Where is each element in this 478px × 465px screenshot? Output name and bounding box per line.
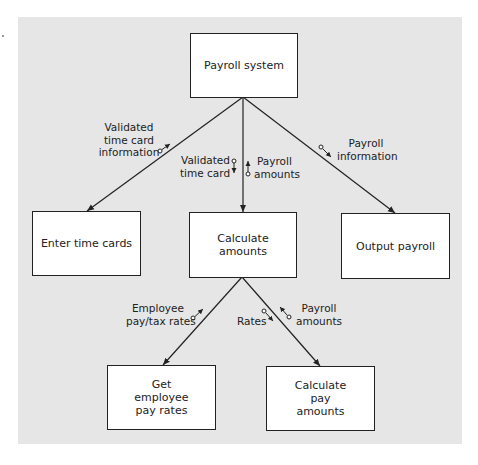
couple-label-payroll-amounts-up: Payroll amounts bbox=[254, 155, 300, 180]
couple-label-payroll-information: Payroll information bbox=[337, 137, 395, 162]
label-line: time card bbox=[98, 134, 160, 147]
module-label: Calculate amounts bbox=[196, 232, 290, 258]
module-label: Output payroll bbox=[356, 240, 435, 253]
label-line: Validated bbox=[180, 154, 230, 167]
label-line: Employee bbox=[126, 302, 190, 315]
module-label: Calculate pay amounts bbox=[289, 379, 352, 418]
couple-validated-time-card bbox=[232, 159, 236, 173]
couple-label-payroll-amounts-down: Payroll amounts bbox=[296, 302, 342, 327]
module-output-payroll: Output payroll bbox=[341, 213, 450, 279]
module-enter-time-cards: Enter time cards bbox=[32, 211, 141, 276]
label-line: information bbox=[337, 150, 395, 163]
label-line: information bbox=[98, 146, 160, 159]
label-line: Payroll bbox=[337, 137, 395, 150]
label-line: Validated bbox=[98, 121, 160, 134]
module-get-employee-pay-rates: Get employee pay rates bbox=[107, 365, 216, 430]
label-line: amounts bbox=[296, 315, 342, 328]
label-line: amounts bbox=[254, 168, 300, 181]
module-label: Payroll system bbox=[204, 59, 284, 72]
couple-label-validated-time-card-info: Validated time card information bbox=[98, 121, 160, 159]
label-line: pay/tax rates bbox=[126, 315, 190, 328]
couple-label-rates: Rates bbox=[237, 315, 267, 328]
couple-payroll-amounts-up bbox=[246, 161, 250, 176]
label-line: Payroll bbox=[296, 302, 342, 315]
couple-payroll-information bbox=[319, 145, 331, 157]
couple-payroll-amounts-down bbox=[280, 307, 291, 319]
module-calculate-amounts: Calculate amounts bbox=[189, 212, 297, 278]
couple-label-employee-pay-tax-rates: Employee pay/tax rates bbox=[126, 302, 190, 327]
label-line: Payroll bbox=[254, 155, 300, 168]
module-payroll-system: Payroll system bbox=[190, 33, 298, 98]
label-line: time card bbox=[180, 167, 230, 180]
module-label: Enter time cards bbox=[41, 237, 132, 250]
module-label: Get employee pay rates bbox=[130, 378, 193, 417]
couple-label-validated-time-card: Validated time card bbox=[180, 154, 230, 179]
module-calculate-pay-amounts: Calculate pay amounts bbox=[266, 366, 375, 431]
label-line: Rates bbox=[237, 315, 267, 328]
